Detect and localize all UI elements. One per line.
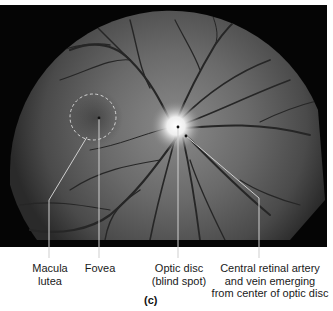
- label-macula-line1: Macula: [29, 262, 71, 275]
- fundus-photo-frame: [0, 5, 327, 247]
- figure-caption: (c): [144, 294, 157, 306]
- fundus-image: [0, 5, 327, 247]
- label-optic-disc-line2: (blind spot): [150, 275, 208, 288]
- label-macula-line2: lutea: [29, 275, 71, 288]
- optic-disc-glow: [150, 100, 202, 152]
- label-artery-line2: and vein emerging: [211, 275, 329, 288]
- label-macula-lutea: Macula lutea: [29, 262, 71, 287]
- label-artery-line1: Central retinal artery: [211, 262, 329, 275]
- retina: [4, 5, 327, 247]
- label-fovea: Fovea: [84, 262, 116, 275]
- label-artery-line3: from center of optic disc: [211, 287, 329, 300]
- label-optic-disc: Optic disc (blind spot): [150, 262, 208, 287]
- label-central-retinal-artery: Central retinal artery and vein emerging…: [211, 262, 329, 300]
- label-fovea-line1: Fovea: [84, 262, 116, 275]
- label-optic-disc-line1: Optic disc: [150, 262, 208, 275]
